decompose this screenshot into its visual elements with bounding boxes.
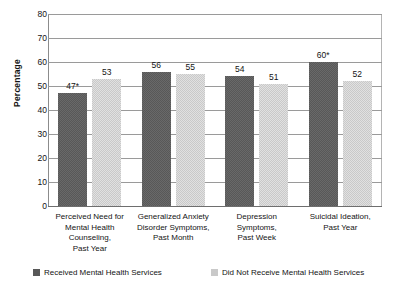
x-category-label-line: Past Year xyxy=(291,223,391,234)
legend-item-1[interactable]: Did Not Receive Mental Health Services xyxy=(211,268,364,277)
bar-1-0 xyxy=(92,79,121,206)
bar-value-label-0-0: 47* xyxy=(58,81,87,91)
x-category-label-line: Past Year xyxy=(40,244,140,255)
bars-layer: 47*535655545160*52 xyxy=(48,14,382,206)
bar-0-3 xyxy=(309,62,338,206)
bar-value-label-1-3: 52 xyxy=(343,69,372,79)
legend-label-0: Received Mental Health Services xyxy=(44,268,162,277)
bar-1-3 xyxy=(343,81,372,206)
gridline-0 xyxy=(48,206,382,207)
legend-swatch-icon-1 xyxy=(211,269,218,276)
y-tick-70: 70 xyxy=(23,33,47,43)
y-tick-60: 60 xyxy=(23,57,47,67)
bar-value-label-0-3: 60* xyxy=(309,50,338,60)
y-tick-80: 80 xyxy=(23,9,47,19)
y-tick-10: 10 xyxy=(23,177,47,187)
x-category-label-3: Suicidal Ideation,Past Year xyxy=(291,212,391,233)
bar-0-0 xyxy=(58,93,87,206)
legend-label-1: Did Not Receive Mental Health Services xyxy=(222,268,364,277)
bar-0-1 xyxy=(142,72,171,206)
bar-0-2 xyxy=(225,76,254,206)
y-axis-title: Percentage xyxy=(12,38,22,128)
x-category-label-line: Past Week xyxy=(207,233,307,244)
y-tick-20: 20 xyxy=(23,153,47,163)
legend-swatch-icon-0 xyxy=(33,269,40,276)
bar-value-label-1-1: 55 xyxy=(176,62,205,72)
bar-value-label-1-2: 51 xyxy=(259,72,288,82)
y-tick-0: 0 xyxy=(23,201,47,211)
bar-chart: Percentage 47*535655545160*52 0102030405… xyxy=(0,0,399,289)
bar-1-2 xyxy=(259,84,288,206)
bar-value-label-1-0: 53 xyxy=(92,67,121,77)
bar-value-label-0-2: 54 xyxy=(225,64,254,74)
chart-legend: Received Mental Health ServicesDid Not R… xyxy=(0,266,399,282)
legend-item-0[interactable]: Received Mental Health Services xyxy=(33,268,162,277)
y-tick-40: 40 xyxy=(23,105,47,115)
bar-1-1 xyxy=(176,74,205,206)
bar-value-label-0-1: 56 xyxy=(142,60,171,70)
plot-area: 47*535655545160*52 xyxy=(48,14,382,206)
x-category-label-line: Suicidal Ideation, xyxy=(291,212,391,223)
y-tick-50: 50 xyxy=(23,81,47,91)
y-tick-30: 30 xyxy=(23,129,47,139)
